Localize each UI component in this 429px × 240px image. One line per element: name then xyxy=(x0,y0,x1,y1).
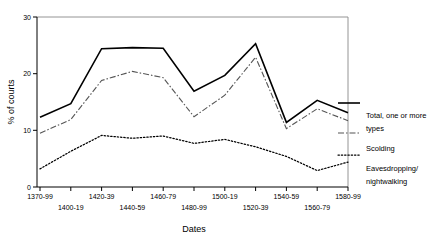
y-axis-title: % of courts xyxy=(6,79,16,125)
chart-legend: Total, one or more types Scolding Eavesd… xyxy=(338,103,426,186)
x-tick-label-1440-59: 1440-59 xyxy=(120,204,146,211)
x-axis-tick-labels-row2: 1400-19 1440-59 1480-99 1520-39 1560-79 xyxy=(58,204,330,211)
x-tick-label-1520-39: 1520-39 xyxy=(243,204,269,211)
x-tick-label-1500-19: 1500-19 xyxy=(212,193,238,200)
x-axis-title: Dates xyxy=(182,224,206,234)
series-line-scolding xyxy=(40,57,348,133)
x-tick-label-1580-99: 1580-99 xyxy=(335,193,361,200)
x-tick-label-1420-39: 1420-39 xyxy=(89,193,115,200)
x-tick-label-1460-79: 1460-79 xyxy=(150,193,176,200)
y-tick-label-20: 20 xyxy=(23,70,31,77)
x-tick-label-1370-99: 1370-99 xyxy=(27,193,53,200)
series-line-eavesdropping xyxy=(40,135,348,170)
legend-label-total-line1: Total, one or more xyxy=(366,111,426,120)
y-axis-ticks xyxy=(33,17,37,187)
x-tick-label-1560-79: 1560-79 xyxy=(304,204,330,211)
chart-figure: 0 10 20 30 % of courts 1370-99 1420-39 1… xyxy=(0,0,429,240)
legend-label-scolding: Scolding xyxy=(366,144,395,153)
x-axis-tick-labels-row1: 1370-99 1420-39 1460-79 1500-19 1540-59 … xyxy=(27,193,361,200)
y-axis-tick-labels: 0 10 20 30 xyxy=(23,14,31,191)
series-line-total xyxy=(40,44,348,123)
line-chart: 0 10 20 30 % of courts 1370-99 1420-39 1… xyxy=(0,0,429,240)
y-tick-label-0: 0 xyxy=(27,184,31,191)
x-axis-ticks xyxy=(40,187,348,191)
legend-label-eavesdropping-line2: nightwalking xyxy=(366,177,407,186)
y-tick-label-10: 10 xyxy=(23,127,31,134)
x-tick-label-1480-99: 1480-99 xyxy=(181,204,207,211)
x-tick-label-1400-19: 1400-19 xyxy=(58,204,84,211)
legend-label-total-line2: types xyxy=(366,124,384,133)
y-tick-label-30: 30 xyxy=(23,14,31,21)
x-tick-label-1540-59: 1540-59 xyxy=(274,193,300,200)
plot-frame xyxy=(37,17,348,187)
legend-label-eavesdropping-line1: Eavesdropping/ xyxy=(366,164,419,173)
